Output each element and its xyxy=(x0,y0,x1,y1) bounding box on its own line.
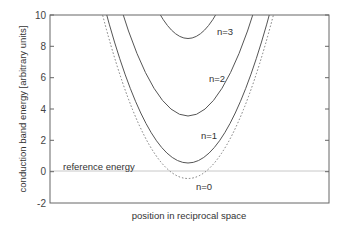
label-n1: n=1 xyxy=(201,130,217,141)
label-n3: n=3 xyxy=(217,26,233,37)
label-n0: n=0 xyxy=(196,181,212,192)
axes-frame xyxy=(50,15,329,203)
curve-n0 xyxy=(100,5,276,179)
y-tick-6: 6 xyxy=(40,72,46,83)
label-n2: n=2 xyxy=(209,73,225,84)
y-tick-2: 2 xyxy=(40,135,46,146)
curve-n1 xyxy=(104,5,272,163)
y-tick-minus2: -2 xyxy=(37,198,46,209)
plot-area xyxy=(100,5,276,179)
y-tick-10: 10 xyxy=(35,10,47,21)
y-tick-8: 8 xyxy=(40,41,46,52)
curve-n3 xyxy=(155,5,221,39)
curve-n2 xyxy=(120,5,256,116)
chart: 10 8 6 4 2 0 -2 n=3 n=2 n=1 n=0 referenc… xyxy=(0,0,344,225)
x-axis-label: position in reciprocal space xyxy=(132,210,247,221)
y-tick-0: 0 xyxy=(40,166,46,177)
label-reference-energy: reference energy xyxy=(63,161,135,172)
y-axis-label: conduction band energy [arbitrary units] xyxy=(17,26,28,193)
y-tick-4: 4 xyxy=(40,104,46,115)
